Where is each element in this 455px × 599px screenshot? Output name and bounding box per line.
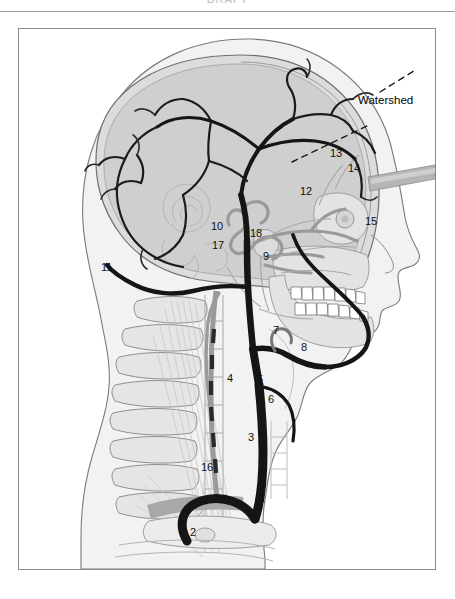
- header-rule: [0, 11, 455, 12]
- annotation-watershed: Watershed: [358, 95, 413, 107]
- label-2: 2: [190, 527, 196, 538]
- label-12: 12: [300, 186, 312, 197]
- label-6: 6: [268, 394, 274, 405]
- anatomy-illustration: [19, 29, 435, 569]
- label-7: 7: [273, 325, 279, 336]
- label-16: 16: [201, 462, 213, 473]
- label-4: 4: [227, 373, 233, 384]
- label-13: 13: [330, 148, 342, 159]
- label-11: 11: [101, 262, 112, 273]
- label-3: 3: [248, 432, 254, 443]
- label-14: 14: [348, 163, 360, 174]
- label-10: 10: [211, 221, 223, 232]
- figure-frame: Watershed 1 2 3 4 5 6 7 8 9 10 11 12 13 …: [18, 28, 436, 570]
- page-header: DRAFT: [0, 0, 455, 14]
- label-9: 9: [263, 251, 269, 262]
- label-18: 18: [250, 228, 262, 239]
- label-17: 17: [212, 240, 224, 251]
- label-8: 8: [301, 342, 307, 353]
- page-header-text: DRAFT: [0, 0, 455, 5]
- label-1: 1: [259, 493, 265, 504]
- label-5: 5: [257, 374, 263, 385]
- label-15: 15: [365, 216, 377, 227]
